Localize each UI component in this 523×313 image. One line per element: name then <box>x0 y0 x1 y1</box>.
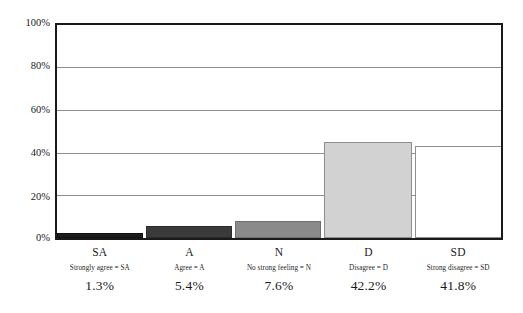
x-axis-labels: SA Strongly agree = SA 1.3% A Agree = A … <box>55 243 503 293</box>
x-category-d: D Disagree = D 42.2% <box>324 243 414 293</box>
x-value-label-n: 7.6% <box>234 279 324 293</box>
y-tick-label-40: 40% <box>2 147 50 158</box>
x-tick-label-n: N <box>234 246 324 258</box>
x-category-n: N No strong feeling = N 7.6% <box>234 243 324 293</box>
plot-inner <box>57 25 501 238</box>
x-value-label-d: 42.2% <box>324 279 414 293</box>
bar-d <box>324 142 412 238</box>
x-category-sa: SA Strongly agree = SA 1.3% <box>55 243 145 293</box>
x-legend-sd: Strong disagree = SD <box>413 265 503 273</box>
bar-sd <box>415 146 501 238</box>
bar-sa <box>57 233 143 238</box>
x-tick-label-d: D <box>324 246 414 258</box>
x-legend-d: Disagree = D <box>324 265 414 273</box>
y-tick-label-0: 0% <box>2 232 50 243</box>
gridline-80 <box>57 67 501 68</box>
y-tick-label-20: 20% <box>2 191 50 202</box>
bar-a <box>146 226 232 238</box>
x-legend-n: No strong feeling = N <box>234 265 324 273</box>
x-value-label-sa: 1.3% <box>55 279 145 293</box>
x-tick-label-sd: SD <box>413 246 503 258</box>
y-tick-label-80: 80% <box>2 60 50 71</box>
x-value-label-sd: 41.8% <box>413 279 503 293</box>
bar-chart: 100% 80% 60% 40% 20% 0% SA Strongly agre… <box>0 0 523 313</box>
x-legend-sa: Strongly agree = SA <box>55 265 145 273</box>
x-category-a: A Agree = A 5.4% <box>145 243 235 293</box>
x-tick-label-sa: SA <box>55 246 145 258</box>
x-tick-label-a: A <box>145 246 235 258</box>
gridline-60 <box>57 110 501 111</box>
y-tick-label-100: 100% <box>2 17 50 28</box>
x-value-label-a: 5.4% <box>145 279 235 293</box>
x-category-sd: SD Strong disagree = SD 41.8% <box>413 243 503 293</box>
bar-n <box>235 221 321 238</box>
x-legend-a: Agree = A <box>145 265 235 273</box>
y-tick-label-60: 60% <box>2 104 50 115</box>
plot-area <box>55 23 503 240</box>
